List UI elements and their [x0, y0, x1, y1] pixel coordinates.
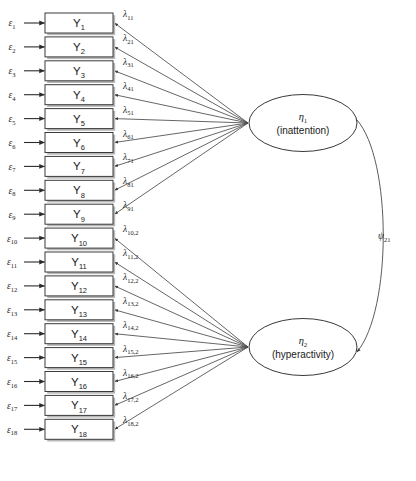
indicator-box-y18: Y18 [45, 419, 115, 441]
error-term-y17: ε17 [7, 401, 45, 413]
loading-arrow-y3 [115, 71, 249, 123]
indicator-box-y2: Y2 [45, 37, 115, 59]
error-term-y12: ε12 [7, 281, 45, 293]
loading-label-y17: λ17,2 [122, 391, 139, 403]
error-term-y2: ε2 [9, 42, 45, 54]
indicator-box-y7: Y7 [45, 156, 115, 178]
error-arrows-group: ε1ε2ε3ε4ε5ε6ε7ε8ε9ε10ε11ε12ε13ε14ε15ε16ε… [7, 18, 45, 436]
error-label: ε6 [9, 138, 17, 150]
loading-arrow-y9 [115, 123, 249, 214]
loading-label-y12: λ12,2 [122, 272, 139, 284]
loading-arrow-y12 [115, 286, 249, 347]
error-term-y13: ε13 [7, 305, 45, 317]
indicator-box-y16: Y16 [45, 372, 115, 394]
error-term-y16: ε16 [7, 377, 45, 389]
error-label: ε1 [9, 18, 16, 30]
error-label: ε4 [9, 90, 17, 102]
error-term-y5: ε5 [9, 114, 45, 126]
error-term-y10: ε10 [7, 234, 45, 246]
indicator-boxes-group: Y1Y2Y3Y4Y5Y6Y7Y8Y9Y10Y11Y12Y13Y14Y15Y16Y… [45, 13, 115, 442]
error-label: ε2 [9, 42, 16, 54]
error-term-y7: ε7 [9, 162, 45, 174]
eta2-name-label: (hyperactivity) [272, 349, 334, 360]
loading-label-y7: λ71 [122, 152, 134, 164]
loading-arrow-y2 [115, 47, 249, 123]
indicator-box-y5: Y5 [45, 109, 115, 131]
eta1-name-label: (inattention) [277, 125, 330, 136]
error-label: ε3 [9, 66, 16, 78]
error-term-y14: ε14 [7, 329, 45, 341]
error-label: ε5 [9, 114, 16, 126]
loading-label-y15: λ15,2 [122, 344, 139, 356]
error-label: ε15 [7, 353, 17, 365]
indicator-box-y6: Y6 [45, 133, 115, 155]
diagram-canvas: Y1Y2Y3Y4Y5Y6Y7Y8Y9Y10Y11Y12Y13Y14Y15Y16Y… [0, 0, 416, 481]
loading-label-y14: λ14,2 [122, 320, 139, 332]
loading-arrow-y14 [115, 334, 249, 347]
indicator-box-y10: Y10 [45, 228, 115, 250]
latent-factors-group: η1 (inattention) η2 (hyperactivity) [249, 95, 357, 376]
loading-arrow-y4 [115, 95, 249, 123]
indicator-box-y11: Y11 [45, 252, 115, 274]
loading-arrow-y18 [115, 347, 249, 429]
sem-path-diagram: Y1Y2Y3Y4Y5Y6Y7Y8Y9Y10Y11Y12Y13Y14Y15Y16Y… [0, 0, 416, 481]
loading-label-y18: λ18,2 [122, 415, 139, 427]
error-label: ε13 [7, 305, 17, 317]
error-label: ε14 [7, 329, 18, 341]
indicator-box-y17: Y17 [45, 395, 115, 417]
error-label: ε7 [9, 162, 17, 174]
loading-label-y11: λ11,2 [122, 248, 138, 260]
indicator-box-y1: Y1 [45, 13, 115, 35]
loading-arrow-y7 [115, 123, 249, 166]
error-label: ε12 [7, 281, 17, 293]
loading-label-y3: λ31 [122, 57, 134, 69]
error-label: ε8 [9, 186, 16, 198]
error-term-y15: ε15 [7, 353, 45, 365]
loading-arrow-y1 [115, 23, 249, 123]
error-label: ε17 [7, 401, 18, 413]
error-label: ε11 [7, 257, 17, 269]
loading-label-y8: λ81 [122, 176, 134, 188]
loading-label-y6: λ61 [122, 129, 134, 141]
latent-factor-eta1: η1 (inattention) [249, 95, 357, 152]
psi-label: ψ21 [378, 231, 390, 243]
loading-label-y5: λ51 [122, 105, 134, 117]
indicator-box-y4: Y4 [45, 85, 115, 107]
error-label: ε18 [7, 425, 17, 437]
error-label: ε9 [9, 210, 16, 222]
indicator-box-y12: Y12 [45, 276, 115, 298]
loading-arrows-group [115, 23, 249, 429]
error-label: ε16 [7, 377, 18, 389]
loading-label-y1: λ11 [122, 9, 133, 21]
error-label: ε10 [7, 234, 17, 246]
loading-label-y2: λ21 [122, 33, 134, 45]
loading-label-y4: λ41 [122, 81, 134, 93]
indicator-box-y8: Y8 [45, 180, 115, 202]
indicator-box-y14: Y14 [45, 324, 115, 346]
error-term-y6: ε6 [9, 138, 45, 150]
error-term-y11: ε11 [7, 257, 45, 269]
loading-label-y13: λ13,2 [122, 296, 139, 308]
indicator-box-y15: Y15 [45, 348, 115, 370]
indicator-box-y13: Y13 [45, 300, 115, 322]
indicator-box-y9: Y9 [45, 204, 115, 226]
parameter-labels-group: ψ21 λ11λ21λ31λ41λ51λ61λ71λ81λ91λ10,2λ11,… [122, 9, 390, 427]
error-term-y9: ε9 [9, 210, 45, 222]
error-term-y4: ε4 [9, 90, 45, 102]
error-term-y1: ε1 [9, 18, 45, 30]
error-term-y3: ε3 [9, 66, 45, 78]
loading-label-y10: λ10,2 [122, 224, 139, 236]
error-term-y18: ε18 [7, 425, 45, 437]
loading-label-y16: λ16,2 [122, 368, 139, 380]
error-term-y8: ε8 [9, 186, 45, 198]
latent-factor-eta2: η2 (hyperactivity) [249, 319, 357, 376]
indicator-box-y3: Y3 [45, 61, 115, 83]
loading-arrow-y5 [115, 119, 249, 123]
